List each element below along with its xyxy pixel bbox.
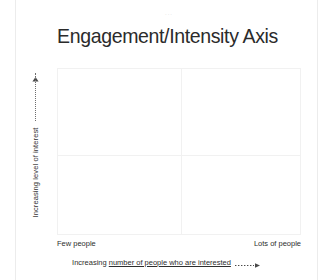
- y-axis-group: Increasing level of interest: [24, 68, 46, 238]
- x-axis-caption: Increasing number of people who are inte…: [0, 258, 333, 268]
- x-axis-low-label: Few people: [57, 239, 96, 249]
- quadrant-top-left[interactable]: [58, 69, 181, 155]
- quadrant-top-right[interactable]: [181, 69, 300, 155]
- x-axis-caption-emphasis: number of people who are interested: [109, 258, 231, 267]
- quadrant-matrix: [57, 68, 301, 235]
- arrow-right-icon: [235, 261, 261, 266]
- x-axis-caption-lead: Increasing: [72, 258, 109, 267]
- x-axis-high-label: Lots of people: [254, 239, 301, 249]
- top-artifact-marks: ...: [162, 11, 176, 16]
- y-axis-label: Increasing level of interest: [31, 109, 40, 237]
- quadrant-bottom-left[interactable]: [58, 155, 181, 234]
- quadrant-bottom-right[interactable]: [181, 155, 300, 234]
- slide-canvas: ... Engagement/Intensity Axis Increasing…: [0, 0, 333, 280]
- page-title: Engagement/Intensity Axis: [30, 23, 304, 49]
